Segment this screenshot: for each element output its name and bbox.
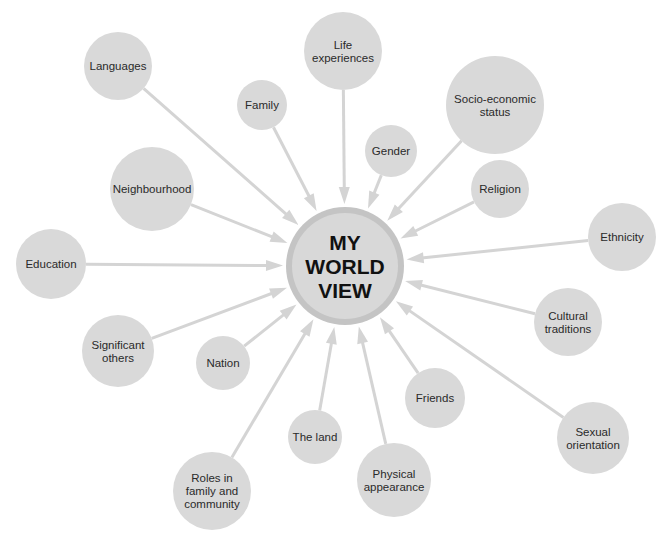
node-nation: Nation — [196, 336, 250, 390]
arrowhead-icon — [300, 319, 313, 336]
connector-arrow-family — [273, 127, 316, 211]
node-life-experiences: Lifeexperiences — [304, 12, 382, 90]
node-label: The land — [293, 431, 338, 443]
node-socio-economic-status: Socio-economicstatus — [446, 56, 544, 154]
node-friends: Friends — [405, 368, 465, 428]
node-ethnicity: Ethnicity — [588, 203, 656, 271]
arrowhead-icon — [407, 252, 424, 263]
world-view-diagram: LanguagesFamilyLifeexperiencesGenderSoci… — [0, 0, 667, 536]
connector-arrow-education — [86, 260, 283, 271]
arrowhead-icon — [357, 326, 368, 344]
node-sexual-orientation: Sexualorientation — [557, 402, 629, 474]
connector-arrow-significant-others — [152, 288, 287, 339]
node-cultural-traditions: Culturaltraditions — [534, 288, 602, 356]
arrowhead-icon — [266, 260, 283, 271]
arrowhead-icon — [339, 187, 350, 204]
node-label: Religion — [479, 183, 521, 195]
node-neighbourhood: Neighbourhood — [110, 147, 194, 231]
arrowhead-icon — [380, 317, 394, 334]
node-label: Education — [25, 258, 76, 270]
connector-arrow-religion — [401, 202, 475, 239]
connector-arrow-nation — [244, 305, 296, 347]
node-label: Friends — [416, 392, 455, 404]
arrowhead-icon — [368, 191, 379, 209]
connector-arrow-neighbourhood — [191, 205, 287, 243]
arrowhead-icon — [401, 226, 419, 238]
node-label: Neighbourhood — [113, 183, 192, 195]
arrowhead-icon — [304, 193, 317, 211]
node-education: Education — [16, 229, 86, 299]
node-label: Nation — [206, 357, 239, 369]
node-label: Culturaltraditions — [545, 310, 592, 335]
arrowhead-icon — [405, 280, 423, 291]
connector-arrow-physical-appearance — [357, 326, 385, 443]
arrowhead-icon — [326, 327, 337, 345]
node-label: Languages — [90, 60, 147, 72]
connector-arrow-ethnicity — [407, 241, 589, 264]
node-religion: Religion — [471, 160, 529, 218]
connector-arrow-life-experiences — [339, 90, 350, 204]
center-node: MYWORLDVIEW — [286, 207, 404, 325]
node-significant-others: Significantothers — [82, 315, 154, 387]
node-physical-appearance: Physicalappearance — [357, 443, 431, 517]
node-the-land: The land — [288, 410, 342, 464]
node-languages: Languages — [84, 32, 152, 100]
connector-arrow-friends — [380, 317, 418, 373]
arrowhead-icon — [270, 232, 288, 243]
node-label: Roles infamily andcommunity — [184, 472, 240, 510]
node-family: Family — [237, 80, 287, 130]
node-label: Ethnicity — [600, 231, 644, 243]
arrowhead-icon — [396, 301, 413, 315]
node-gender: Gender — [365, 125, 417, 177]
connector-arrow-cultural-traditions — [405, 280, 535, 314]
arrowhead-icon — [269, 288, 287, 299]
node-label: Gender — [372, 145, 411, 157]
node-label: Physicalappearance — [364, 468, 425, 493]
node-label: Family — [245, 99, 279, 111]
node-roles-in-family-and-community: Roles infamily andcommunity — [173, 452, 251, 530]
connector-arrow-the-land — [320, 327, 337, 410]
connector-arrow-gender — [368, 175, 381, 208]
